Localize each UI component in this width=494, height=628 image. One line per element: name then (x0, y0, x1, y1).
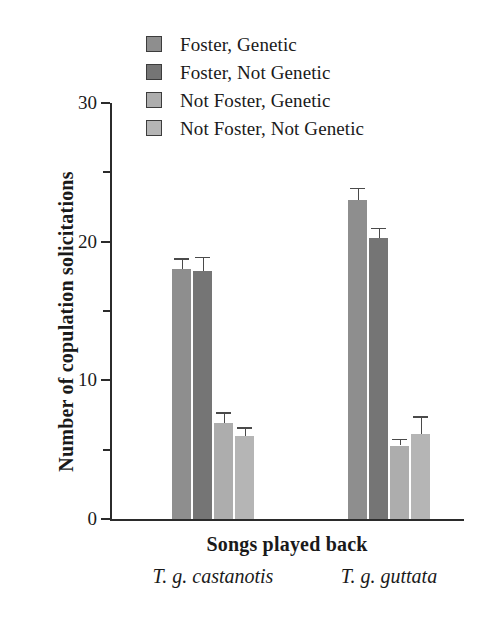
y-tick-label: 30 (53, 93, 97, 112)
y-tick-minor (103, 171, 110, 173)
error-bar (224, 412, 226, 423)
error-bar-cap (216, 412, 231, 414)
error-bar (182, 258, 184, 269)
bar (390, 446, 409, 519)
y-tick-major (101, 102, 110, 104)
error-bar-cap (237, 427, 252, 429)
y-tick-major (101, 379, 110, 381)
bar (348, 200, 367, 519)
x-group-label-castanotis: T. g. castanotis (113, 565, 313, 588)
error-bar-cap (350, 188, 365, 190)
bar (411, 434, 430, 519)
y-tick-major (101, 518, 110, 520)
y-tick-minor (103, 449, 110, 451)
y-axis-title: Number of copulation solicitations (55, 112, 78, 532)
y-tick-minor (103, 310, 110, 312)
bar (369, 238, 388, 519)
x-axis-line (110, 519, 464, 521)
y-tick-major (101, 241, 110, 243)
bar-chart: 0102030 Number of copulation solicitatio… (0, 0, 494, 628)
error-bar-cap (413, 416, 428, 418)
bar (172, 269, 191, 519)
error-bar (203, 257, 205, 271)
error-bar-cap (392, 439, 407, 441)
error-bar-cap (174, 258, 189, 260)
bar (193, 271, 212, 519)
x-group-label-guttata: T. g. guttata (289, 565, 489, 588)
y-axis-line (110, 103, 112, 521)
error-bar-cap (195, 257, 210, 259)
bar (214, 423, 233, 519)
error-bar (358, 188, 360, 200)
x-axis-title: Songs played back (110, 533, 464, 556)
error-bar-cap (371, 228, 386, 230)
bar (235, 436, 254, 519)
error-bar (421, 416, 423, 434)
